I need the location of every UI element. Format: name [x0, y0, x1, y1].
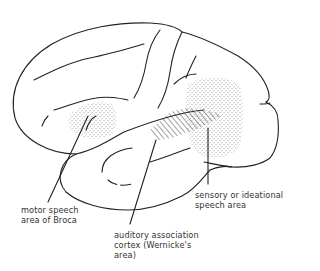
label-wernicke-line-1: auditory association: [114, 230, 199, 240]
broca-area-stipple: [68, 102, 116, 139]
label-broca-line-1: motor speech: [21, 205, 79, 215]
broca-pointer: [48, 116, 88, 202]
wernicke-pointer: [130, 140, 156, 224]
label-broca-line-2: area of Broca: [21, 215, 79, 225]
label-wernicke-line-3: area): [114, 250, 199, 260]
label-sensory-line-2: speech area: [195, 200, 283, 210]
label-wernicke: auditory association cortex (Wernicke's …: [114, 230, 199, 260]
label-sensory-line-1: sensory or ideational: [195, 190, 283, 200]
label-broca: motor speech area of Broca: [21, 205, 79, 225]
label-sensory: sensory or ideational speech area: [195, 190, 283, 210]
label-wernicke-line-2: cortex (Wernicke's: [114, 240, 199, 250]
